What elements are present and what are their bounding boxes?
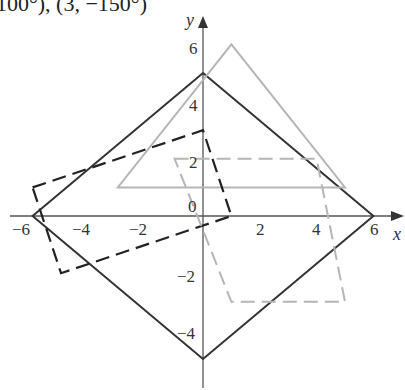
x-tick-label: −6 — [12, 220, 30, 239]
x-axis-label: x — [392, 224, 401, 244]
x-tick-label: −2 — [129, 220, 147, 239]
y-tick-label: −2 — [177, 267, 195, 286]
x-tick-label: −4 — [72, 220, 91, 239]
y-axis-arrow-icon — [198, 16, 208, 28]
black-dashed-quadrilateral — [33, 130, 232, 273]
y-axis-label: y — [184, 10, 194, 30]
coordinate-plane: y x 0 −6 −4 −2 2 4 6 6 4 2 −2 −4 — [0, 0, 405, 390]
y-tick-label: 2 — [189, 153, 198, 172]
x-tick-label: 6 — [370, 220, 379, 239]
x-axis-arrow-icon — [391, 211, 404, 221]
y-tick-label: 6 — [189, 39, 198, 58]
origin-label: 0 — [188, 197, 197, 216]
y-tick-label: −4 — [177, 324, 196, 343]
x-tick-label: 4 — [312, 220, 321, 239]
x-tick-label: 2 — [256, 220, 265, 239]
y-tick-label: 4 — [189, 96, 198, 115]
